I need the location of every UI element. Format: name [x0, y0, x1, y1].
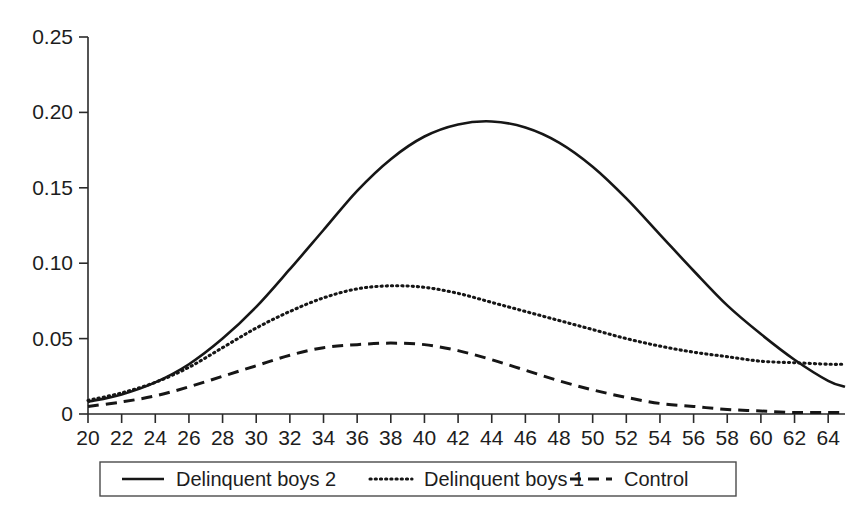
y-tick-label: 0.25: [32, 25, 73, 48]
x-tick-label: 22: [110, 426, 133, 449]
y-tick-label: 0.10: [32, 251, 73, 274]
x-tick-label: 46: [514, 426, 537, 449]
x-tick-label: 24: [144, 426, 168, 449]
x-axis-ticks: [88, 414, 828, 423]
x-tick-label: 58: [716, 426, 739, 449]
x-tick-label: 64: [816, 426, 840, 449]
y-tick-label: 0.20: [32, 100, 73, 123]
series-layer: [88, 121, 845, 412]
x-tick-label: 30: [245, 426, 268, 449]
x-tick-label: 56: [682, 426, 705, 449]
x-tick-label: 26: [177, 426, 200, 449]
legend-label-3: Control: [624, 468, 688, 490]
x-tick-label: 42: [446, 426, 469, 449]
x-tick-label: 52: [615, 426, 638, 449]
x-tick-label: 48: [547, 426, 570, 449]
x-tick-label: 20: [76, 426, 99, 449]
y-axis-group: 00.050.100.150.200.25: [32, 25, 88, 425]
line-chart-canvas: 00.050.100.150.200.25 202224262830323436…: [0, 0, 859, 530]
x-tick-label: 38: [379, 426, 402, 449]
series-line-3: [88, 343, 845, 412]
x-tick-label: 44: [480, 426, 504, 449]
x-tick-label: 54: [648, 426, 672, 449]
y-tick-label: 0.05: [32, 327, 73, 350]
x-tick-label: 50: [581, 426, 604, 449]
y-tick-label: 0.15: [32, 176, 73, 199]
x-tick-label: 32: [278, 426, 301, 449]
x-axis-group: 2022242628303234363840424446485052545658…: [76, 414, 845, 449]
x-tick-label: 40: [413, 426, 436, 449]
chart-figure: 00.050.100.150.200.25 202224262830323436…: [0, 0, 859, 530]
legend-label-2: Delinquent boys 1: [424, 468, 584, 490]
y-tick-label: 0: [61, 402, 73, 425]
x-tick-label: 28: [211, 426, 234, 449]
y-axis-tick-labels: 00.050.100.150.200.25: [32, 25, 73, 425]
legend-label-1: Delinquent boys 2: [176, 468, 336, 490]
x-tick-label: 34: [312, 426, 336, 449]
x-tick-label: 36: [345, 426, 368, 449]
x-axis-tick-labels: 2022242628303234363840424446485052545658…: [76, 426, 840, 449]
y-axis-ticks: [79, 37, 88, 414]
x-tick-label: 60: [749, 426, 772, 449]
x-tick-label: 62: [783, 426, 806, 449]
legend: Delinquent boys 2Delinquent boys 1Contro…: [100, 462, 736, 496]
